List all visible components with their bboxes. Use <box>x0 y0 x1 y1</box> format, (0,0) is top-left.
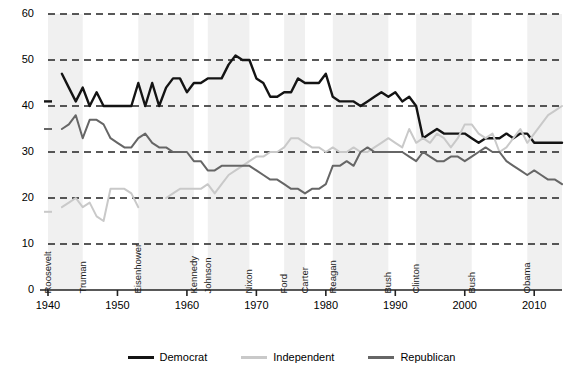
y-tick-label-60: 60 <box>8 8 34 19</box>
y-tick-label-50: 50 <box>8 54 34 65</box>
president-label-truman-1: Truman <box>77 261 87 293</box>
x-tick-label-1990: 1990 <box>375 300 415 311</box>
y-tick-label-30: 30 <box>8 146 34 157</box>
president-label-ford-6: Ford <box>279 274 289 294</box>
legend-item-democrat[interactable]: Democrat <box>128 352 208 363</box>
president-label-nixon-5: Nixon <box>244 269 254 293</box>
legend-item-independent[interactable]: Independent <box>241 352 334 363</box>
president-label-obama-12: Obama <box>522 262 532 293</box>
president-label-bush-9: Bush <box>383 272 393 294</box>
president-label-bush-11: Bush <box>466 272 476 294</box>
president-label-johnson-4: Johnson <box>202 258 212 294</box>
chart-root: 0102030405060 19401950196019701980199020… <box>0 0 583 375</box>
president-label-kennedy-3: Kennedy <box>188 256 198 294</box>
y-tick-label-20: 20 <box>8 192 34 203</box>
chart-legend: DemocratIndependentRepublican <box>0 352 583 363</box>
x-tick-label-1960: 1960 <box>167 300 207 311</box>
president-label-eisenhower-2: Eisenhower <box>133 244 143 294</box>
legend-label: Independent <box>273 352 334 363</box>
president-label-clinton-10: Clinton <box>411 264 421 294</box>
x-tick-label-1970: 1970 <box>236 300 276 311</box>
legend-swatch-independent-icon <box>241 356 267 359</box>
x-tick-label-1950: 1950 <box>97 300 137 311</box>
axis-tick-marks <box>48 290 534 296</box>
x-tick-label-1980: 1980 <box>306 300 346 311</box>
x-tick-label-1940: 1940 <box>28 300 68 311</box>
legend-label: Republican <box>400 352 455 363</box>
party-identification-line-chart <box>0 0 583 375</box>
series-line-democrat <box>62 55 562 142</box>
legend-swatch-republican-icon <box>368 356 394 359</box>
legend-label: Democrat <box>160 352 208 363</box>
y-tick-label-10: 10 <box>8 238 34 249</box>
president-label-roosevelt-0: Roosevelt <box>43 251 53 293</box>
x-tick-label-2000: 2000 <box>445 300 485 311</box>
president-label-reagan-8: Reagan <box>327 260 337 293</box>
legend-swatch-democrat-icon <box>128 356 154 359</box>
y-tick-label-0: 0 <box>8 284 34 295</box>
legend-item-republican[interactable]: Republican <box>368 352 455 363</box>
president-label-carter-7: Carter <box>300 267 310 293</box>
x-tick-label-2010: 2010 <box>514 300 554 311</box>
y-tick-label-40: 40 <box>8 100 34 111</box>
series-line-republican <box>62 115 562 193</box>
